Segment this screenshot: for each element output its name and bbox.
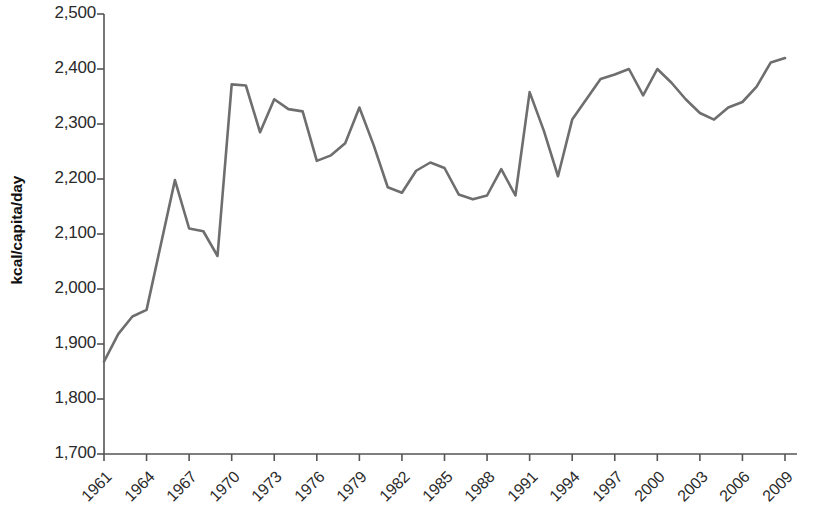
data-series-line <box>104 58 785 362</box>
chart-container: kcal/capita/day 1,7001,8001,9002,0002,10… <box>0 0 835 510</box>
axis-lines <box>104 14 797 454</box>
plot-area <box>0 0 835 510</box>
